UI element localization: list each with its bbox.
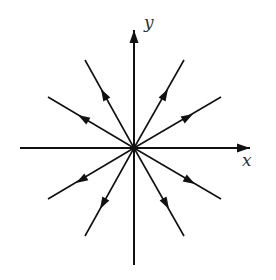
y-axis-label: y [143, 12, 154, 32]
ray-upper-left-steep [85, 60, 134, 148]
y-axis-arrow-icon [130, 30, 139, 43]
ray-line [134, 97, 221, 148]
radial-vector-field-diagram: x y [0, 0, 276, 280]
axis-labels: x y [143, 12, 252, 170]
ray-line [85, 148, 134, 236]
ray-lower-left-steep [85, 148, 134, 236]
ray-upper-right-steep [134, 60, 184, 148]
ray-upper-left-shallow [48, 97, 134, 148]
ray-upper-right-shallow [134, 97, 221, 148]
ray-line [85, 60, 134, 148]
ray-arrow-icon [159, 89, 168, 101]
ray-line [48, 97, 134, 148]
ray-arrow-icon [183, 174, 195, 184]
ray-arrow-icon [101, 89, 110, 101]
ray-arrow-icon [78, 115, 90, 125]
ray-line [134, 148, 221, 199]
ray-arrow-icon [76, 173, 88, 183]
ray-line [134, 148, 184, 236]
ray-lower-right-steep [134, 148, 184, 236]
ray-lower-right-shallow [134, 148, 221, 199]
ray-arrow-icon [100, 197, 109, 209]
ray-arrow-icon [160, 197, 169, 209]
ray-line [48, 148, 134, 199]
x-axis-label: x [242, 150, 252, 170]
ray-line [134, 60, 184, 148]
ray-arrow-icon [181, 114, 193, 124]
ray-lower-left-shallow [48, 148, 134, 199]
